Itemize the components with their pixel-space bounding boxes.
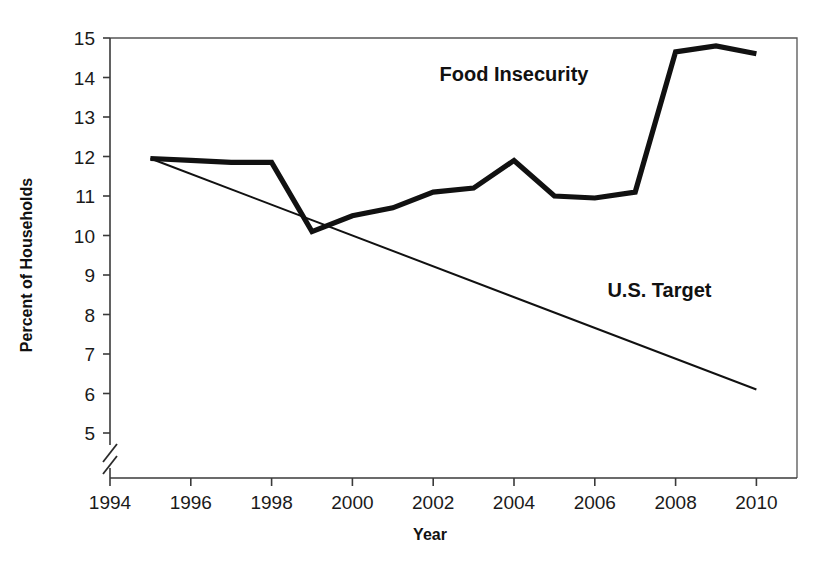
chart-container: 15 14 13 12 11 10 9 8 7 6 5 Percent of H… <box>0 0 839 566</box>
y-tick-label: 6 <box>84 384 95 405</box>
y-tick-label: 5 <box>84 423 95 444</box>
y-tick-label: 14 <box>74 68 96 89</box>
x-axis-title: Year <box>413 526 447 543</box>
y-tick-label: 8 <box>84 305 95 326</box>
y-tick-label: 9 <box>84 265 95 286</box>
y-axis-ticks <box>103 38 110 433</box>
y-tick-label: 10 <box>74 226 95 247</box>
x-tick-label: 1996 <box>170 492 212 513</box>
x-axis-tick-labels: 1994 1996 1998 2000 2002 2004 2006 2008 … <box>89 492 778 513</box>
x-axis-ticks <box>110 478 756 486</box>
y-axis-title: Percent of Households <box>18 178 35 352</box>
x-tick-label: 2006 <box>574 492 616 513</box>
y-tick-label: 11 <box>75 186 95 207</box>
series-label-food-insecurity: Food Insecurity <box>440 63 590 85</box>
y-axis-tick-labels: 15 14 13 12 11 10 9 8 7 6 5 <box>74 28 96 444</box>
x-tick-label: 2004 <box>493 492 536 513</box>
x-tick-label: 2008 <box>654 492 696 513</box>
x-tick-label: 2000 <box>331 492 373 513</box>
x-tick-label: 1998 <box>250 492 292 513</box>
x-tick-label: 1994 <box>89 492 132 513</box>
data-series-group <box>150 46 756 390</box>
y-tick-label: 12 <box>74 147 95 168</box>
x-tick-label: 2002 <box>412 492 454 513</box>
series-line-us-target <box>150 158 756 389</box>
plot-frame <box>110 38 797 478</box>
y-tick-label: 15 <box>74 28 95 49</box>
series-label-us-target: U.S. Target <box>607 279 711 301</box>
plot-frame-border <box>110 38 797 478</box>
y-tick-label: 13 <box>74 107 95 128</box>
x-tick-label: 2010 <box>735 492 777 513</box>
food-insecurity-line-chart: 15 14 13 12 11 10 9 8 7 6 5 Percent of H… <box>0 0 839 566</box>
x-axis: 1994 1996 1998 2000 2002 2004 2006 2008 … <box>89 478 797 543</box>
y-axis: 15 14 13 12 11 10 9 8 7 6 5 Percent of H… <box>18 28 117 478</box>
y-tick-label: 7 <box>84 344 95 365</box>
